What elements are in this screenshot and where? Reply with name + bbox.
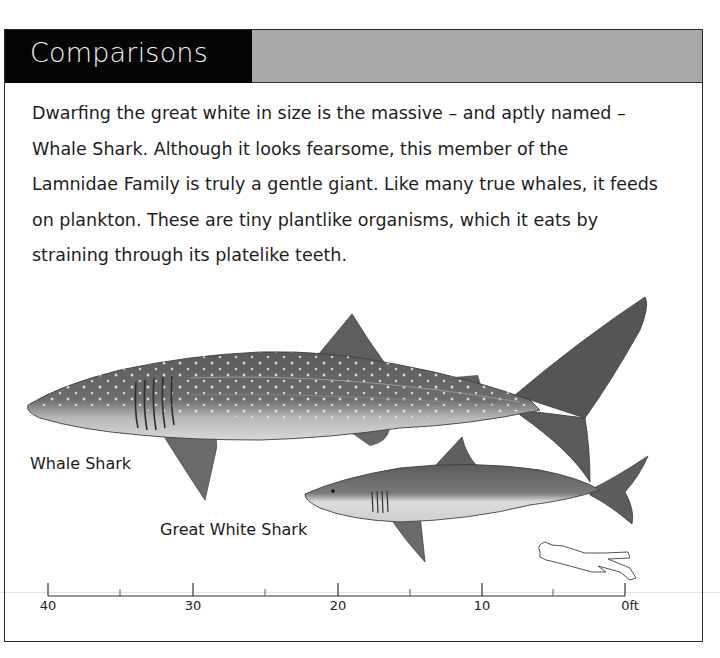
- scale-tick-label: 30: [185, 598, 202, 613]
- scale-tick-label: 20: [330, 598, 347, 613]
- scale-tick-label: 10: [474, 598, 491, 613]
- scuba-diver-outline-icon: [539, 542, 636, 580]
- scale-tick-label: 0ft: [621, 598, 639, 613]
- scale-tick-label: 40: [40, 598, 57, 613]
- great-white-shark-label: Great White Shark: [160, 520, 307, 539]
- shark-illustration: [0, 0, 720, 658]
- great-white-shark-drawing: [305, 437, 648, 562]
- scale-bar: [48, 583, 625, 596]
- whale-shark-label: Whale Shark: [30, 454, 131, 473]
